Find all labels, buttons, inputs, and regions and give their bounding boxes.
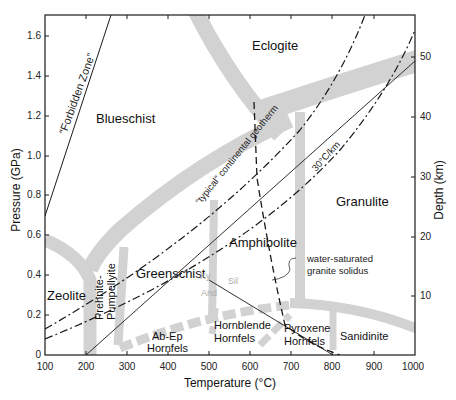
solidus-leader [272,258,296,280]
label-hornblende-2: Hornfels [214,332,255,344]
svg-text:10: 10 [420,290,432,301]
label-sanidinite: Sanidinite [340,330,388,342]
svg-text:700: 700 [283,361,300,372]
kyanite-label: Ky [200,271,211,281]
label-greenschist: Greenschist [136,266,206,281]
granite-solidus-label-1: water-saturated [306,253,373,264]
label-abep-2: Hornfels [147,342,188,354]
y2-axis-title: Depth (km) [432,160,446,219]
label-pyroxene-1: Pyroxene [284,322,330,334]
svg-text:1.6: 1.6 [27,30,41,41]
andalusite-label: And [201,288,217,298]
svg-text:900: 900 [366,361,383,372]
label-blueschist: Blueschist [96,111,156,126]
facies-diagram: 100 200 300 400 500 600 700 800 900 1000… [0,0,456,400]
label-hornblende-1: Hornblende [214,319,271,331]
svg-text:1.4: 1.4 [27,70,41,81]
svg-text:1.0: 1.0 [27,150,41,161]
label-granulite: Granulite [336,194,389,209]
svg-text:100: 100 [37,361,54,372]
band-prehnite-right [118,247,124,345]
forbidden-zone-label: “Forbidden Zone” [57,51,97,135]
x-axis-title: Temperature (°C) [184,376,276,390]
svg-text:20: 20 [420,231,432,242]
svg-text:0.8: 0.8 [27,189,41,200]
label-pumpellyite: Pumpellyite [105,263,117,320]
svg-text:50: 50 [420,51,432,62]
y-tick-labels: 0 0.2 0.4 0.6 0.8 1.0 1.2 1.4 1.6 [27,30,41,360]
svg-text:300: 300 [119,361,136,372]
svg-text:0.4: 0.4 [27,269,41,280]
svg-text:500: 500 [201,361,218,372]
label-zeolite: Zeolite [47,288,86,303]
band-greenschist-amphibolite [212,200,214,320]
band-eclogite-lower [258,60,420,112]
y2-tick-labels: 10 20 30 40 50 [420,51,432,301]
svg-text:800: 800 [324,361,341,372]
svg-text:30: 30 [420,171,432,182]
svg-text:40: 40 [420,111,432,122]
typical-geotherm-label: “typical” continental geotherm [193,102,280,206]
gradient-30-label: 30°C/km [309,139,342,174]
svg-text:0.2: 0.2 [27,309,41,320]
svg-text:400: 400 [160,361,177,372]
label-abep-1: Ab-Ep [152,330,183,342]
label-eclogite: Eclogite [252,38,298,53]
label-amphibolite: Amphibolite [229,235,297,250]
granite-solidus-label-2: granite solidus [307,265,369,276]
y-axis-title: Pressure (GPa) [9,148,23,231]
label-pyroxene-2: Hornfels [284,335,325,347]
svg-text:1.2: 1.2 [27,110,41,121]
svg-text:1000: 1000 [402,361,425,372]
x-tick-labels: 100 200 300 400 500 600 700 800 900 1000 [37,361,425,372]
label-prehnite: Prehnite- [93,275,105,320]
svg-text:0.6: 0.6 [27,229,41,240]
sillimanite-label: Sil [228,276,238,286]
svg-text:600: 600 [242,361,259,372]
svg-text:0: 0 [35,349,41,360]
svg-text:200: 200 [78,361,95,372]
